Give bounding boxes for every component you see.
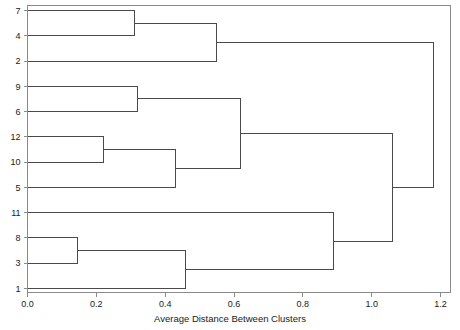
leaf-labels: 742961210511831 bbox=[10, 6, 20, 294]
leaf-label: 8 bbox=[15, 233, 20, 243]
leaf-label: 3 bbox=[15, 258, 20, 268]
dendrogram-links bbox=[28, 11, 434, 289]
x-tick-label: 1.2 bbox=[434, 299, 447, 309]
leaf-label: 9 bbox=[15, 82, 20, 92]
dendrogram-link bbox=[28, 23, 217, 61]
dendrogram-link bbox=[28, 86, 138, 111]
dendrogram-link bbox=[28, 238, 78, 263]
x-tick-label: 0.4 bbox=[159, 299, 172, 309]
leaf-label: 5 bbox=[15, 183, 20, 193]
x-tick-label: 0.2 bbox=[90, 299, 103, 309]
leaf-label: 10 bbox=[10, 157, 20, 167]
dendrogram-link bbox=[138, 99, 241, 169]
leaf-label: 4 bbox=[15, 31, 20, 41]
x-tick-label: 0.6 bbox=[228, 299, 241, 309]
leaf-label: 7 bbox=[15, 6, 20, 16]
x-axis-tick-labels: 0.00.20.40.60.81.01.2 bbox=[21, 299, 447, 309]
plot-frame bbox=[28, 6, 451, 293]
y-axis-ticks bbox=[24, 11, 28, 289]
x-tick-label: 0.0 bbox=[21, 299, 34, 309]
leaf-label: 6 bbox=[15, 107, 20, 117]
dendrogram-link bbox=[28, 11, 135, 36]
x-tick-label: 0.8 bbox=[297, 299, 310, 309]
dendrogram-link bbox=[28, 137, 104, 162]
x-tick-label: 1.0 bbox=[365, 299, 378, 309]
leaf-label: 11 bbox=[11, 208, 20, 218]
x-axis-ticks bbox=[28, 293, 441, 297]
leaf-label: 12 bbox=[10, 132, 20, 142]
dendrogram-chart: 0.00.20.40.60.81.01.2 742961210511831 Av… bbox=[0, 0, 460, 330]
leaf-label: 1 bbox=[15, 284, 20, 294]
x-axis-title: Average Distance Between Clusters bbox=[154, 313, 306, 324]
leaf-label: 2 bbox=[15, 56, 20, 66]
dendrogram-link bbox=[241, 134, 392, 241]
dendrogram-link bbox=[28, 213, 334, 270]
dendrogram-link bbox=[28, 251, 186, 289]
dendrogram-plot-area: 0.00.20.40.60.81.01.2 742961210511831 Av… bbox=[0, 0, 460, 330]
dendrogram-link bbox=[217, 42, 434, 187]
dendrogram-link bbox=[28, 150, 176, 188]
